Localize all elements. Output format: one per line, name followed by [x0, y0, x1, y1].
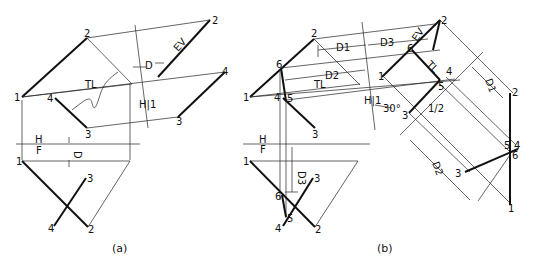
edge-3-4-aux-a	[178, 72, 225, 117]
label-5-top-b: 5	[287, 93, 293, 104]
label-3-front-b: 3	[314, 173, 320, 184]
label-1-front-a: 1	[16, 156, 22, 167]
label-2-front-b: 2	[315, 224, 321, 235]
label-1-aux2-b: 1	[508, 203, 514, 214]
label-1-top-b: 1	[243, 92, 249, 103]
edge-x-6-aux2-b	[478, 155, 510, 201]
label-d3-front-b: D3	[296, 171, 307, 185]
label-d2-aux2-b: D2	[430, 160, 445, 177]
label-4-aux-a: 4	[222, 66, 228, 77]
label-d1-top-b: D1	[336, 42, 350, 53]
edge-2-x-front-a	[88, 161, 130, 227]
proj-4-aux-b	[446, 77, 516, 145]
label-3-front-a: 3	[87, 173, 93, 184]
edge-2-x-top-a	[87, 38, 132, 84]
label-30deg-b: 30°	[383, 103, 401, 114]
label-4-top-b: 4	[274, 92, 280, 103]
label-6-top-b: 6	[276, 59, 282, 70]
label-3-aux2-b: 3	[455, 168, 461, 179]
label-4-top-a: 4	[47, 93, 53, 104]
drawing-canvas: 1 2 3 4 TL 2 4 3 EV D H|1 H F D 1 3 4 2 …	[0, 0, 535, 271]
edge-2-x-front-b	[315, 161, 358, 227]
edge-view-line-a	[158, 20, 210, 77]
label-3-aux-a: 3	[176, 116, 182, 127]
label-2-top-a: 2	[84, 28, 90, 39]
label-d3-b: D3	[380, 37, 394, 48]
label-3-top-b: 3	[312, 129, 318, 140]
figure-a: 1 2 3 4 TL 2 4 3 EV D H|1 H F D 1 3 4 2 …	[14, 15, 228, 255]
proj-2-a	[87, 20, 210, 38]
caption-b: (b)	[377, 242, 393, 255]
edge-1-x-top-b	[250, 84, 360, 97]
label-6-aux2-b: 6	[512, 150, 518, 161]
label-fold12-b: 1/2	[428, 103, 444, 114]
label-5-front-b: 5	[287, 213, 293, 224]
label-d-front-a: D	[72, 151, 83, 159]
proj-1-aux-b	[384, 77, 512, 205]
label-2-aux2-b: 2	[512, 87, 518, 98]
label-f-b: F	[260, 144, 266, 155]
label-6-aux1-b: 6	[407, 43, 413, 54]
label-2-aux-a: 2	[212, 15, 218, 26]
figure-b: 1 2 3 4 5 6 D1 D2 TL D3 2 6 EV TL 1 4 5 …	[243, 15, 520, 255]
edge-1-2-top-a	[22, 38, 87, 97]
proj-3-a	[87, 117, 178, 128]
label-4-front-a: 4	[48, 223, 54, 234]
label-ev-a: EV	[171, 36, 188, 53]
label-6-front-b: 6	[275, 191, 281, 202]
edge-6-5-top-b	[281, 68, 286, 101]
label-tl-a: TL	[84, 79, 97, 90]
label-1-front-b: 1	[243, 156, 249, 167]
label-hi-a: H|1	[139, 99, 156, 111]
label-1-aux1-b: 1	[378, 71, 384, 82]
edge-1-2-front-a	[22, 161, 88, 227]
label-3-aux1-b: 3	[402, 110, 408, 121]
label-3-top-a: 3	[85, 129, 91, 140]
label-5-aux2-b: 5	[504, 140, 510, 151]
fold-line-h1-a	[135, 25, 148, 128]
tl-curve-a	[72, 72, 118, 110]
label-tl-aux1-b: TL	[424, 58, 441, 75]
label-f-a: F	[36, 145, 42, 156]
label-4-aux1-b: 4	[446, 66, 452, 77]
label-h-a: H	[35, 134, 43, 145]
label-2-top-b: 2	[311, 28, 317, 39]
label-2-aux1-b: 2	[441, 15, 447, 26]
label-d2-top-b: D2	[325, 70, 339, 81]
label-5-aux1-b: 5	[438, 81, 444, 92]
label-hi-b: H|1	[364, 95, 381, 107]
label-2-front-a: 2	[88, 224, 94, 235]
caption-a: (a)	[112, 242, 127, 255]
label-d-aux-a: D	[145, 60, 153, 71]
fold-line-h1-b	[362, 22, 375, 130]
proj-6-b	[281, 50, 440, 68]
fold-line-12-b	[400, 52, 483, 135]
label-1-top-a: 1	[14, 92, 20, 103]
label-tl-top-b: TL	[313, 79, 326, 90]
label-4-front-b: 4	[275, 223, 281, 234]
